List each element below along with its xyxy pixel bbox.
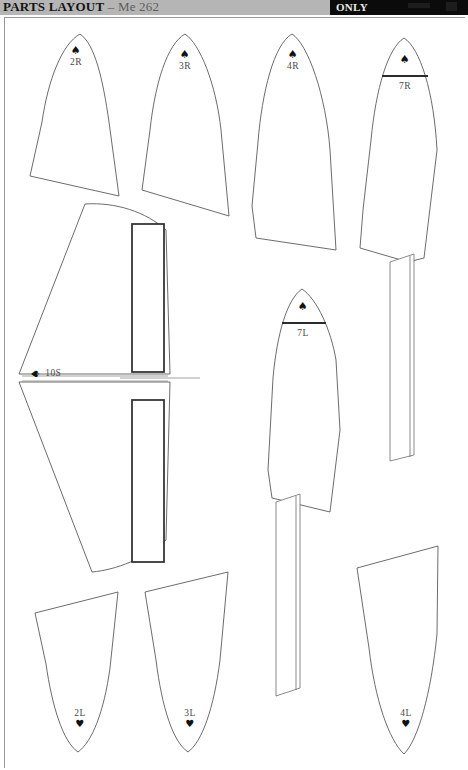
spade-icon: ♠ [275, 50, 311, 60]
spade-icon: ♠ [167, 50, 203, 60]
part-10S-spar-upper [132, 224, 164, 372]
part-label-4L: 4L ♥ [388, 707, 424, 728]
part-label-text-7L: 7L [285, 327, 321, 339]
spade-icon: ♠ [387, 55, 423, 65]
part-label-7R-suit: ♠ [387, 55, 423, 65]
part-label-7L: 7L [285, 327, 321, 339]
parts-drawing-sheet [0, 0, 468, 770]
part-label-text-7R: 7R [387, 80, 423, 92]
heart-icon: ♥ [62, 719, 98, 728]
part-label-4R: ♠ 4R [275, 50, 311, 72]
part-label-2R: ♠ 2R [58, 46, 94, 68]
heart-icon: ♥ [172, 719, 208, 728]
heart-icon: ♥ [388, 719, 424, 728]
part-label-3L: 3L ♥ [172, 707, 208, 728]
part-10S-spar-lower [132, 400, 164, 562]
part-label-7R: 7R [387, 80, 423, 92]
part-shape-7R [360, 38, 437, 262]
parts-layout-page: PARTS LAYOUT – Me 262 ONLY [0, 0, 468, 770]
part-label-7L-suit: ♠ [285, 302, 321, 312]
part-label-text-4R: 4R [275, 60, 311, 72]
spade-icon: ♠ [30, 368, 41, 378]
part-label-10S: ♠ 10S [30, 368, 61, 379]
spade-icon: ♠ [285, 302, 321, 312]
spade-icon: ♠ [58, 46, 94, 56]
part-label-text-2R: 2R [58, 56, 94, 68]
part-label-text-10S: 10S [45, 368, 61, 379]
part-label-3R: ♠ 3R [167, 50, 203, 72]
part-label-2L: 2L ♥ [62, 707, 98, 728]
part-label-text-3R: 3R [167, 60, 203, 72]
